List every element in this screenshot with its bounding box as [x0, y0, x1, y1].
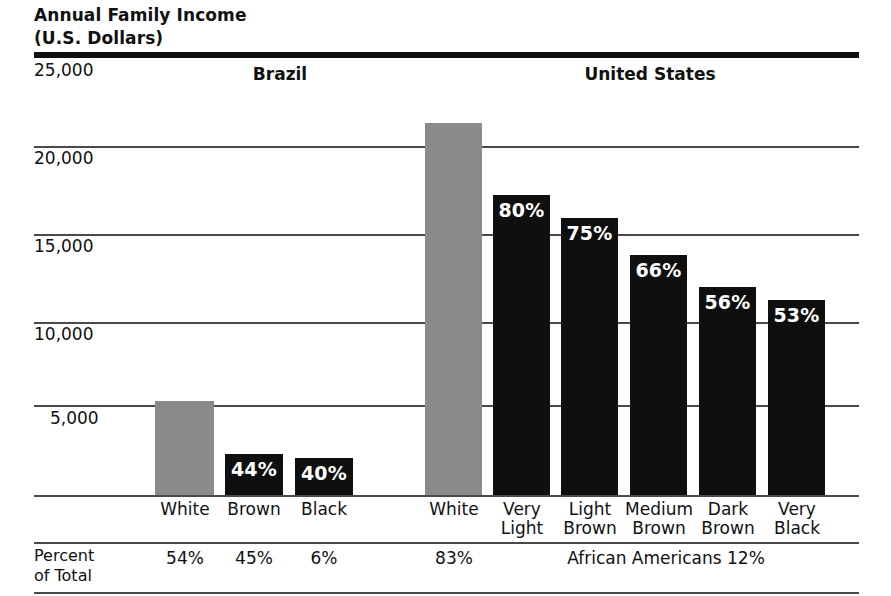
chart-figure: Annual Family Income (U.S. Dollars) 25,0…: [0, 0, 891, 596]
footer-african-americans-note: African Americans 12%: [496, 548, 836, 568]
bar-brazil-brown: 44%: [225, 454, 283, 495]
bar-us-white: [425, 123, 482, 495]
bar-us-very-light: 80%: [493, 195, 550, 495]
xaxis-label-us-very-black: Very Black: [757, 500, 837, 538]
bar-label-us-very-light: 80%: [493, 199, 550, 221]
footer-percent-brazil-brown: 45%: [214, 548, 294, 568]
bar-label-us-light-brown: 75%: [561, 222, 618, 244]
footer-percent-brazil-black: 6%: [284, 548, 364, 568]
bar-label-us-medium-brown: 66%: [630, 259, 687, 281]
group-header-brazil: Brazil: [185, 64, 375, 84]
ytick-label-20000: 20,000: [34, 148, 138, 168]
xaxis-label-brazil-black: Black: [284, 500, 364, 519]
bar-us-medium-brown: 66%: [630, 255, 687, 495]
bar-label-us-dark-brown: 56%: [699, 291, 756, 313]
footer-rule-bottom: [34, 592, 859, 594]
group-header-united-states: United States: [500, 64, 800, 84]
footer-rule-top: [34, 542, 859, 544]
ytick-label-5000: 5,000: [34, 408, 138, 428]
bar-label-brazil-brown: 44%: [225, 458, 283, 480]
bar-brazil-black: 40%: [295, 458, 353, 495]
footer-percent-us-white: 83%: [414, 548, 494, 568]
ytick-label-10000: 10,000: [34, 324, 138, 344]
bar-us-very-black: 53%: [768, 300, 825, 495]
bar-label-brazil-black: 40%: [295, 462, 353, 484]
title-line-1: Annual Family Income: [34, 4, 454, 27]
footer-row-label: Percent of Total: [34, 546, 94, 586]
ytick-label-15000: 15,000: [34, 236, 138, 256]
bar-us-dark-brown: 56%: [699, 287, 756, 495]
bar-label-us-very-black: 53%: [768, 304, 825, 326]
page-title: Annual Family Income (U.S. Dollars): [34, 4, 454, 50]
axis-top-rule: [34, 52, 859, 58]
bar-us-light-brown: 75%: [561, 218, 618, 495]
footer-percent-brazil-white: 54%: [145, 548, 225, 568]
title-line-2: (U.S. Dollars): [34, 27, 454, 50]
ytick-label-25000: 25,000: [34, 60, 138, 80]
axis-baseline: [34, 495, 859, 497]
xaxis-label-brazil-white: White: [145, 500, 225, 519]
xaxis-label-brazil-brown: Brown: [214, 500, 294, 519]
bar-brazil-white: [155, 401, 214, 495]
